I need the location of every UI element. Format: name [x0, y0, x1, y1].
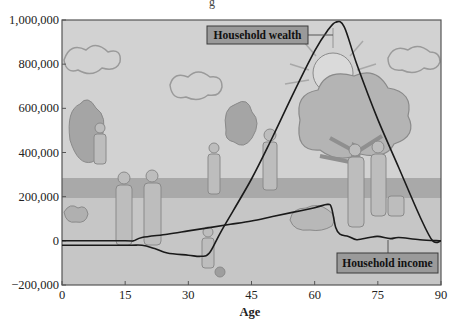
- y-tick-label: −200,000: [11, 278, 59, 292]
- x-tick-label: 30: [182, 288, 195, 302]
- age-income-wealth-chart: g: [0, 0, 457, 323]
- income-callout-label: Household income: [342, 257, 432, 269]
- y-tick-label: 0: [53, 234, 59, 248]
- x-tick-label: 90: [435, 288, 448, 302]
- y-tick-label: 800,000: [18, 57, 59, 71]
- y-axis: −200,0000200,000400,000600,000800,0001,0…: [9, 13, 66, 292]
- y-tick-label: 1,000,000: [9, 13, 59, 27]
- y-tick-label: 600,000: [18, 101, 59, 115]
- x-tick-label: 0: [59, 288, 65, 302]
- x-tick-label: 15: [119, 288, 132, 302]
- wealth-callout-label: Household wealth: [214, 29, 302, 41]
- x-tick-label: 45: [245, 288, 258, 302]
- chart-title-fragment: g: [209, 0, 215, 9]
- flowers: [64, 206, 88, 223]
- chart-container: g: [0, 0, 457, 323]
- x-tick-label: 75: [372, 288, 385, 302]
- y-tick-label: 200,000: [18, 190, 59, 204]
- y-tick-label: 400,000: [18, 146, 59, 160]
- x-axis-title: Age: [240, 305, 261, 319]
- x-tick-label: 60: [308, 288, 321, 302]
